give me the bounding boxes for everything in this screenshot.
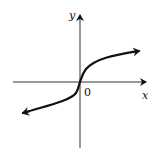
function-curve-left-end [23,111,30,113]
origin-label: 0 [84,87,91,98]
y-axis-label: y [69,10,75,21]
cube-root-graph [0,0,158,153]
x-axis-label: x [142,90,148,101]
